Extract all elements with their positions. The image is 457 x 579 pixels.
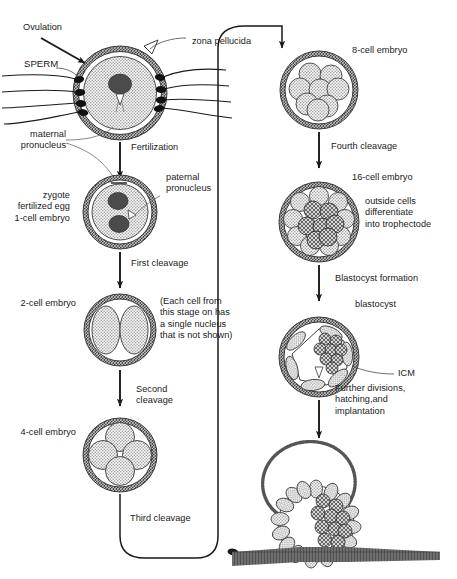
label-blastocyst: blastocyst (355, 299, 396, 310)
label-ovulation: Ovulation (23, 22, 62, 33)
uterine-wall (232, 547, 440, 566)
label-fourth-cleavage: Fourth cleavage (331, 141, 397, 152)
stage-eight-cell (280, 51, 358, 129)
label-zona-pellucida: zona pellucida (192, 36, 251, 47)
label-third-cleavage: Third cleavage (130, 513, 191, 524)
label-trophectoderm-note: outside cells differentiate into trophec… (365, 196, 431, 230)
label-first-cleavage: First cleavage (131, 258, 188, 269)
label-sixteen-cell-embryo: 16-cell embryo (352, 172, 413, 183)
label-four-cell-embryo: 4-cell embryo (6, 427, 76, 438)
label-two-cell-embryo: 2-cell embryo (6, 298, 76, 309)
label-eight-cell-embryo: 8-cell embryo (352, 45, 407, 56)
label-blastocyst-formation: Blastocyst formation (335, 273, 418, 284)
stage-ovulated-egg (73, 40, 167, 140)
label-single-nucleus-note: (Each cell from this stage on has a sing… (160, 296, 232, 342)
label-zygote: zygote fertilized egg 1-cell embryo (4, 190, 70, 224)
stage-sixteen-cell (279, 182, 359, 262)
diagram-canvas: Ovulation SPERM zona pellucida maternal … (0, 0, 457, 579)
label-sperm: SPERM (24, 58, 58, 69)
stage-two-cell (84, 294, 156, 366)
label-fertilization: Fertilization (131, 142, 178, 153)
label-paternal-pronucleus: paternal pronucleus (166, 172, 211, 195)
label-second-cleavage: Second cleavage (136, 384, 173, 407)
label-maternal-pronucleus: maternal pronucleus (0, 129, 66, 152)
maternal-leader-2 (66, 143, 116, 181)
icm-leader (352, 366, 394, 374)
diagram-artwork (0, 0, 457, 579)
label-further-divisions: Further divisions, hatching,and implanta… (335, 383, 405, 417)
stage-four-cell (83, 418, 157, 492)
stage-zygote (83, 175, 157, 249)
label-icm: ICM (398, 368, 415, 379)
